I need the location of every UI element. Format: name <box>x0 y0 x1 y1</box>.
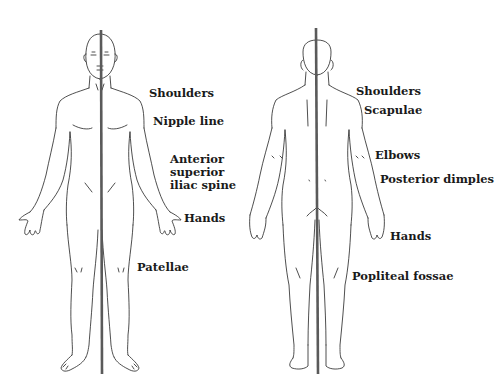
label-shoulders-posterior: Shoulders <box>356 85 421 98</box>
anterior-plumb-line <box>101 30 102 374</box>
label-patellae: Patellae <box>137 261 189 274</box>
label-hands-anterior: Hands <box>184 212 225 225</box>
label-nipple-line: Nipple line <box>153 115 224 128</box>
postural-assessment-diagram: Shoulders Nipple line Anterior superior … <box>0 0 500 380</box>
label-asis-line3: iliac spine <box>170 179 236 192</box>
posterior-plumb-line <box>316 28 318 374</box>
label-scapulae: Scapulae <box>364 104 422 117</box>
label-popliteal-fossae: Popliteal fossae <box>352 270 454 283</box>
body-figures <box>0 0 500 380</box>
label-hands-posterior: Hands <box>390 230 431 243</box>
label-shoulders-anterior: Shoulders <box>149 87 214 100</box>
label-posterior-dimples: Posterior dimples <box>380 173 494 186</box>
label-elbows: Elbows <box>375 149 420 162</box>
